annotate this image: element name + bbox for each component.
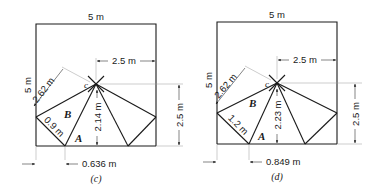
panel-d-right-height: 2.5 m	[350, 102, 361, 126]
panel-c-vertical-height: 2.14 m	[92, 102, 103, 131]
panel-c-left-height: 5 m	[22, 77, 33, 93]
panel-c-label-A: A	[74, 132, 82, 144]
truss-diagram-figure: 5 m 5 m 2.5 m 2.62 m 0.9 m c B A	[0, 0, 379, 195]
panel-c-offset: 0.636 m	[82, 158, 116, 169]
panel-d-label-A: A	[257, 130, 265, 142]
panel-c: 5 m 5 m 2.5 m 2.62 m 0.9 m c B A	[22, 11, 185, 185]
panel-c-top-width: 5 m	[88, 11, 104, 22]
panel-c-label-B: B	[63, 108, 71, 120]
panel-d-half-width: 2.5 m	[293, 54, 317, 65]
panel-c-point-c: c	[84, 80, 88, 90]
panel-d-vertical-height: 2.23 m	[272, 100, 283, 129]
panel-d-left-height: 5 m	[203, 72, 214, 88]
panel-d-label-B: B	[248, 97, 256, 109]
panel-c-caption: (c)	[90, 173, 102, 185]
panel-c-slant-length: 2.62 m	[30, 75, 57, 105]
panel-d-caption: (d)	[271, 171, 283, 183]
panel-c-half-width: 2.5 m	[112, 55, 136, 66]
panel-d-offset: 0.849 m	[266, 156, 300, 167]
panel-c-right-height: 2.5 m	[174, 103, 185, 127]
panel-d: 5 m 5 m 2.5 m 2.62 m 1.2 m c B A 2.23 m	[203, 9, 362, 183]
panel-d-top-width: 5 m	[269, 9, 285, 20]
panel-d-point-c: c	[265, 79, 269, 89]
panel-d-slant-length: 2.62 m	[212, 71, 239, 100]
